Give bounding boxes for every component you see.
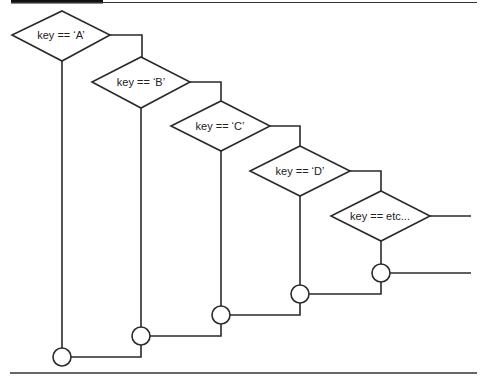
decision-c: key == ‘C’ — [171, 101, 270, 151]
connector-a-to-b — [110, 35, 142, 57]
decision-d-label: key == ‘D’ — [276, 165, 325, 177]
decision-a: key == ‘A’ — [12, 11, 110, 61]
junction-b — [132, 327, 150, 345]
decision-b: key == ‘B’ — [92, 57, 190, 108]
junction-c — [212, 306, 230, 324]
connector-d-to-etc — [350, 171, 381, 191]
junction-a — [53, 348, 71, 366]
merge-d-to-c — [230, 303, 300, 315]
connector-b-to-c — [190, 82, 221, 101]
decision-a-label: key == ‘A’ — [37, 29, 85, 41]
merge-b-to-a — [71, 345, 141, 357]
decision-b-label: key == ‘B’ — [117, 76, 165, 88]
decision-d: key == ‘D’ — [250, 146, 350, 196]
junction-d — [291, 285, 309, 303]
connector-c-to-d — [270, 126, 300, 146]
decision-etc-label: key == etc... — [350, 210, 410, 222]
decision-c-label: key == ‘C’ — [196, 120, 245, 132]
decision-etc: key == etc... — [331, 191, 430, 241]
flowchart-canvas: key == ‘A’ key == ‘B’ key == ‘C’ key == … — [0, 0, 487, 383]
merge-etc-to-d — [309, 282, 381, 294]
merge-c-to-b — [150, 324, 221, 336]
junction-etc — [372, 264, 390, 282]
